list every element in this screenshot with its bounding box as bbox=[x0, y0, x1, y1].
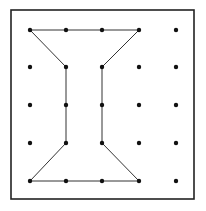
peg-dot bbox=[174, 28, 178, 32]
geoboard-diagram bbox=[0, 0, 206, 211]
peg-dot bbox=[64, 141, 68, 145]
peg-dot bbox=[100, 28, 104, 32]
peg-dot bbox=[174, 103, 178, 107]
peg-dot bbox=[64, 28, 68, 32]
peg-dot bbox=[137, 141, 141, 145]
peg-dot bbox=[174, 65, 178, 69]
peg-dot bbox=[64, 179, 68, 183]
peg-dot bbox=[28, 65, 32, 69]
peg-dot bbox=[28, 28, 32, 32]
peg-dot bbox=[174, 141, 178, 145]
i-beam-shape bbox=[30, 30, 139, 181]
peg-dot bbox=[100, 179, 104, 183]
peg-dot bbox=[64, 65, 68, 69]
peg-dot bbox=[28, 179, 32, 183]
peg-dot bbox=[28, 141, 32, 145]
peg-dot bbox=[137, 103, 141, 107]
peg-dot bbox=[174, 179, 178, 183]
peg-dot bbox=[28, 103, 32, 107]
peg-dot bbox=[100, 141, 104, 145]
peg-dot bbox=[100, 65, 104, 69]
peg-dot bbox=[137, 179, 141, 183]
peg-dot bbox=[100, 103, 104, 107]
peg-dot bbox=[137, 65, 141, 69]
peg-dot bbox=[64, 103, 68, 107]
peg-dot bbox=[137, 28, 141, 32]
